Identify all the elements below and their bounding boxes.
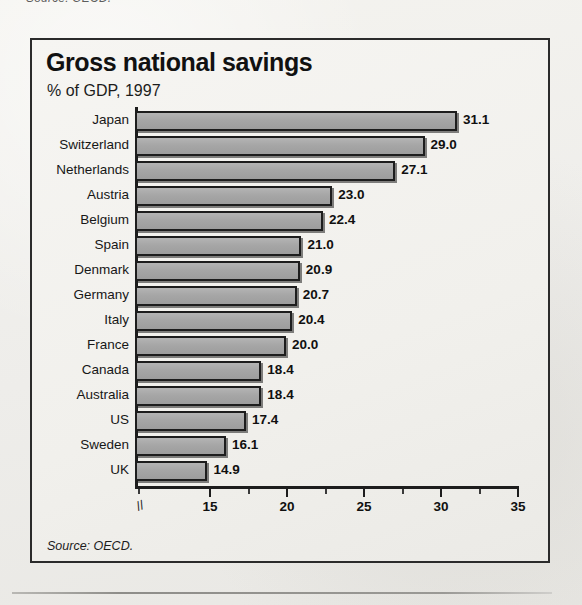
bar (135, 211, 323, 231)
axis-break-marker-icon: // (134, 497, 146, 514)
bar-value-label: 16.1 (232, 437, 258, 452)
bar-value-label: 29.0 (431, 137, 457, 152)
bar (135, 161, 395, 181)
bar-row: Netherlands27.1 (32, 159, 548, 184)
category-label: UK (0, 462, 129, 477)
category-label: Australia (0, 387, 129, 402)
x-axis-tick-label: 15 (202, 499, 217, 514)
bar-value-label: 18.4 (267, 387, 293, 402)
category-label: Netherlands (0, 162, 129, 177)
bar-row: Denmark20.9 (32, 259, 548, 284)
bar (135, 461, 207, 481)
bar-row: Switzerland29.0 (32, 134, 548, 159)
category-label: Denmark (0, 262, 129, 277)
bar (135, 111, 457, 131)
x-axis-tick-label: 35 (510, 499, 525, 514)
x-axis-tick-label: 25 (356, 499, 371, 514)
x-axis-tick (517, 489, 519, 497)
category-label: Canada (0, 362, 129, 377)
x-axis-tick (286, 489, 288, 497)
x-axis-tick (363, 489, 365, 497)
category-label: Sweden (0, 437, 129, 452)
category-label: Spain (0, 237, 129, 252)
x-axis-minor-tick (248, 489, 250, 494)
bar (135, 286, 297, 306)
bar-row: Germany20.7 (32, 284, 548, 309)
bar-value-label: 22.4 (329, 212, 355, 227)
bar-row: Sweden16.1 (32, 434, 548, 459)
bar (135, 136, 425, 156)
bar-value-label: 20.7 (303, 287, 329, 302)
x-axis-minor-tick (402, 489, 404, 494)
x-axis-tick (209, 489, 211, 497)
bar-row: Belgium22.4 (32, 209, 548, 234)
bar (135, 261, 300, 281)
bar (135, 436, 226, 456)
category-label: Italy (0, 312, 129, 327)
bar-row: US17.4 (32, 409, 548, 434)
chart-panel: Gross national savings % of GDP, 1997 Ja… (30, 38, 550, 563)
x-axis-minor-tick (325, 489, 327, 494)
bar-value-label: 23.0 (338, 187, 364, 202)
x-axis-tick-label: 30 (433, 499, 448, 514)
bar (135, 236, 301, 256)
bar (135, 336, 286, 356)
bar-row: Italy20.4 (32, 309, 548, 334)
bar-row: Austria23.0 (32, 184, 548, 209)
bar (135, 386, 261, 406)
category-label: Austria (0, 187, 129, 202)
bar-value-label: 20.9 (306, 262, 332, 277)
category-label: US (0, 412, 129, 427)
category-label: Belgium (0, 212, 129, 227)
bar-row: UK14.9 (32, 459, 548, 484)
bar (135, 186, 332, 206)
bar-row: France20.0 (32, 334, 548, 359)
bar-row: Australia18.4 (32, 384, 548, 409)
bar-value-label: 14.9 (213, 462, 239, 477)
bar-row: Spain21.0 (32, 234, 548, 259)
bar-value-label: 27.1 (401, 162, 427, 177)
x-axis-origin-tick (138, 489, 140, 494)
bar-value-label: 18.4 (267, 362, 293, 377)
x-axis-tick-label: 20 (279, 499, 294, 514)
category-label: Switzerland (0, 137, 129, 152)
bar-value-label: 20.0 (292, 337, 318, 352)
bar-value-label: 31.1 (463, 112, 489, 127)
plot-area: Japan31.1Switzerland29.0Netherlands27.1A… (32, 40, 548, 561)
page-top-text-fragment: Source: OECD. (26, 0, 111, 5)
bar (135, 361, 261, 381)
bar-value-label: 20.4 (298, 312, 324, 327)
category-label: Germany (0, 287, 129, 302)
bar-value-label: 17.4 (252, 412, 278, 427)
bar-row: Canada18.4 (32, 359, 548, 384)
source-note: Source: OECD. (47, 539, 133, 553)
bar-value-label: 21.0 (307, 237, 333, 252)
x-axis-line (135, 486, 519, 489)
bar-row: Japan31.1 (32, 109, 548, 134)
bar (135, 411, 246, 431)
x-axis-minor-tick (479, 489, 481, 494)
page-bottom-rule (12, 592, 552, 594)
bar (135, 311, 292, 331)
category-label: France (0, 337, 129, 352)
category-label: Japan (0, 112, 129, 127)
x-axis-tick (440, 489, 442, 497)
